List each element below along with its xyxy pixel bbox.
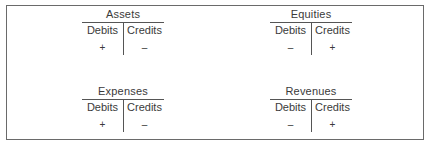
diagram-frame — [6, 5, 424, 140]
credits-label: Credits — [312, 24, 353, 37]
t-account-equities: Equities Debits Credits – + — [270, 8, 352, 62]
credit-sign: + — [312, 43, 353, 53]
debits-label: Debits — [82, 101, 123, 114]
debit-sign: – — [270, 43, 311, 53]
credits-label: Credits — [124, 101, 165, 114]
account-title: Expenses — [82, 85, 164, 98]
t-account-revenues: Revenues Debits Credits – + — [270, 85, 352, 139]
credits-label: Credits — [312, 101, 353, 114]
credit-sign: + — [312, 120, 353, 130]
debit-sign: + — [82, 43, 123, 53]
debit-sign: + — [82, 120, 123, 130]
debits-label: Debits — [270, 101, 311, 114]
debits-label: Debits — [82, 24, 123, 37]
t-account-expenses: Expenses Debits Credits + – — [82, 85, 164, 139]
account-title: Revenues — [270, 85, 352, 98]
credit-sign: – — [124, 120, 165, 130]
credit-sign: – — [124, 43, 165, 53]
account-title: Assets — [82, 8, 164, 21]
credits-label: Credits — [124, 24, 165, 37]
debits-label: Debits — [270, 24, 311, 37]
debit-sign: – — [270, 120, 311, 130]
t-account-assets: Assets Debits Credits + – — [82, 8, 164, 62]
account-title: Equities — [270, 8, 352, 21]
